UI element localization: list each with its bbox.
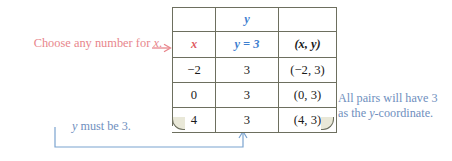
table-row: −2 3 (−2, 3) xyxy=(173,58,337,83)
right-annotation-line2-before: as the xyxy=(338,106,369,120)
figure-canvas: Choose any number for x. All pairs will … xyxy=(0,0,452,161)
table-row: 0 3 (0, 3) xyxy=(173,83,337,108)
table-cell-x: 0 xyxy=(173,83,216,108)
table-cell-pair: (−2, 3) xyxy=(279,58,337,83)
table-group-header-row: y xyxy=(173,8,337,32)
right-annotation-line1: All pairs will have 3 xyxy=(338,91,452,106)
table-header-row: x y = 3 (x, y) xyxy=(173,32,337,58)
table-cell-empty-right xyxy=(279,8,337,32)
table-cell-empty-left xyxy=(173,8,216,32)
right-annotation: All pairs will have 3 as the y-coordinat… xyxy=(338,91,452,121)
table-group-header-y: y xyxy=(216,8,279,32)
table-header-y-equals-3: y = 3 xyxy=(216,32,279,58)
table-grid: y x y = 3 (x, y) −2 3 (−2, 3) 0 3 (0, 3) xyxy=(172,7,337,133)
table-cell-x: −2 xyxy=(173,58,216,83)
left-annotation-text-before: Choose any number for xyxy=(34,36,154,50)
table-cell-y: 3 xyxy=(216,83,279,108)
right-annotation-line2-after: -coordinate. xyxy=(375,106,434,120)
table-cell-y: 3 xyxy=(216,108,279,133)
table-row: 4 3 (4, 3) xyxy=(173,108,337,133)
table-cell-y: 3 xyxy=(216,58,279,83)
table-cell-pair: (0, 3) xyxy=(279,83,337,108)
right-annotation-line2: as the y-coordinate. xyxy=(338,106,452,121)
table-header-x: x xyxy=(173,32,216,58)
left-annotation: Choose any number for x. xyxy=(14,36,162,50)
right-arrow-icon xyxy=(152,43,174,53)
table-header-ordered-pair: (x, y) xyxy=(279,32,337,58)
values-table: y x y = 3 (x, y) −2 3 (−2, 3) 0 3 (0, 3) xyxy=(172,7,333,129)
